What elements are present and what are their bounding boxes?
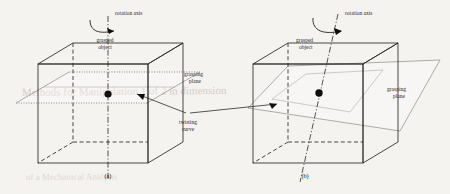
panel-b-caption: (b) xyxy=(301,172,308,180)
technical-figure: Methods for Manipulation 1 of 2 in dimen… xyxy=(0,0,450,194)
cube-b-top-face xyxy=(253,43,398,64)
panel-b: rotation axis grasped object grasping pl… xyxy=(248,10,440,182)
cube-a-hidden-bottom-left xyxy=(38,142,73,163)
grasping-plane-label-a-line2: plane xyxy=(189,78,201,84)
twisting-curve-leader-a xyxy=(137,94,186,113)
cube-b-hidden-bottom-left xyxy=(253,142,288,163)
rotation-arrow-b xyxy=(313,18,342,35)
grasping-plane-label-a-line1: grasping xyxy=(184,71,203,77)
grasping-plane-label-b-line1: grasping xyxy=(387,86,406,92)
grasping-plane-label-b-line2: plane xyxy=(393,93,405,99)
grasped-object-label-b-line1: grasped xyxy=(296,37,313,43)
grasped-object-label-a-line1: grasped xyxy=(96,37,113,43)
object-center-point-b xyxy=(315,89,322,96)
cube-a-right-face xyxy=(148,43,183,163)
twisting-curve-label-line1: twisting xyxy=(179,119,197,125)
rotation-arrow-a xyxy=(90,20,114,34)
figure-container: Methods for Manipulation 1 of 2 in dimen… xyxy=(0,0,450,194)
panel-a-caption: (a) xyxy=(105,172,112,180)
grasping-plane-b xyxy=(248,60,440,131)
grasped-object-label-a-line2: object xyxy=(98,44,112,50)
rotation-arrow-b-head xyxy=(334,28,342,35)
grasped-object-label-b-line2: object xyxy=(299,44,313,50)
twisting-curve-label-line2: curve xyxy=(182,126,195,132)
rotation-axis-label-b: rotation axis xyxy=(345,10,372,16)
object-center-point-a xyxy=(104,90,111,97)
rotation-axis-label-a: rotation axis xyxy=(115,10,142,16)
